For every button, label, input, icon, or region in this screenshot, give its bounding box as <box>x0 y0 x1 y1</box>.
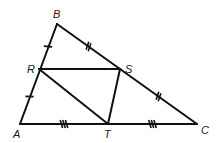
segment-AB <box>20 24 57 124</box>
tick-mark-icon <box>44 46 52 47</box>
vertex-label-B: B <box>53 8 60 20</box>
vertex-label-T: T <box>104 128 112 140</box>
vertex-labels: ABCRST <box>12 8 209 140</box>
triangle-diagram: ABCRST <box>0 0 220 143</box>
vertex-label-A: A <box>12 128 20 140</box>
segment-ST <box>108 69 120 124</box>
vertex-label-C: C <box>201 124 209 136</box>
segment-RT <box>39 69 108 124</box>
segments <box>20 24 197 124</box>
vertex-label-R: R <box>27 63 35 75</box>
vertex-label-S: S <box>125 63 133 75</box>
